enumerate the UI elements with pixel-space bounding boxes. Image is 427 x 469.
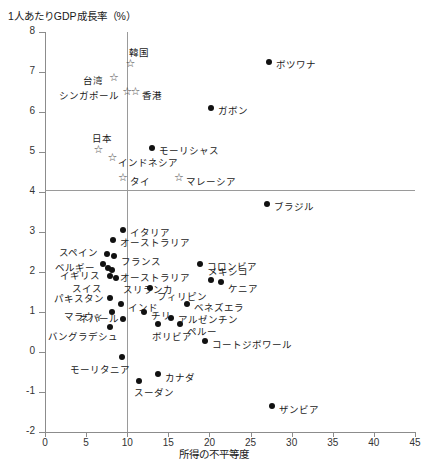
data-point-label: フランス [121, 254, 161, 268]
data-point-label: スペイン [59, 245, 98, 259]
data-point-marker[interactable] [104, 251, 110, 257]
data-point-label: モーリタニア [70, 362, 130, 376]
data-point-marker[interactable] [184, 301, 190, 307]
data-point-marker[interactable] [269, 403, 275, 409]
data-point-marker[interactable] [197, 261, 203, 267]
data-point-marker[interactable] [202, 338, 208, 344]
data-point-label: 日本 [92, 131, 112, 145]
data-point-marker[interactable] [168, 315, 174, 321]
data-point-marker[interactable] [177, 321, 183, 327]
data-point-marker[interactable] [155, 321, 161, 327]
data-point-marker[interactable] [111, 253, 117, 259]
y-tick-mark [39, 32, 45, 33]
y-tick-label: 4 [5, 185, 35, 196]
data-point-marker[interactable] [147, 285, 153, 291]
data-point-label: パキスタン [54, 291, 104, 305]
data-point-marker[interactable]: ☆ [107, 152, 117, 163]
y-axis-line [45, 32, 46, 432]
data-point-marker[interactable] [119, 354, 125, 360]
y-tick-label: -1 [5, 385, 35, 396]
data-point-marker[interactable] [141, 309, 147, 315]
data-point-label: ネパール [79, 311, 119, 325]
y-tick-mark [39, 232, 45, 233]
y-tick-label: 8 [5, 25, 35, 36]
x-axis-title: 所得の不平等度 [0, 446, 427, 461]
y-tick-mark [39, 72, 45, 73]
data-point-marker[interactable] [110, 237, 116, 243]
data-point-marker[interactable] [136, 378, 142, 384]
y-tick-mark [39, 312, 45, 313]
data-point-marker[interactable] [113, 275, 119, 281]
data-point-marker[interactable]: ☆ [126, 58, 136, 69]
y-tick-mark [39, 152, 45, 153]
data-point-label: ボツワナ [276, 57, 316, 71]
y-axis-title: 1人あたりGDP成長率（%） [8, 8, 136, 23]
data-point-marker[interactable] [107, 295, 113, 301]
y-tick-label: 7 [5, 65, 35, 76]
y-tick-label: 6 [5, 105, 35, 116]
y-tick-mark [39, 352, 45, 353]
y-tick-label: 1 [5, 305, 35, 316]
data-point-label: 韓国 [129, 45, 149, 59]
data-point-marker[interactable]: ☆ [93, 144, 103, 155]
y-tick-mark [39, 192, 45, 193]
data-point-label: イギリス [60, 268, 100, 282]
y-tick-mark [39, 112, 45, 113]
data-point-label: コートジボワール [212, 337, 292, 351]
data-point-label: カナダ [165, 370, 195, 384]
data-point-label: ガボン [218, 103, 248, 117]
y-tick-label: 0 [5, 345, 35, 356]
data-point-marker[interactable] [218, 279, 224, 285]
data-point-label: マレーシア [186, 174, 236, 188]
data-point-label: オーストラリア [120, 235, 190, 249]
data-point-label: バングラデシュ [48, 329, 118, 343]
y-tick-label: 2 [5, 265, 35, 276]
y-tick-label: 5 [5, 145, 35, 156]
horizontal-reference-line [45, 190, 415, 191]
data-point-marker[interactable] [264, 201, 270, 207]
scatter-chart: 1人あたりGDP成長率（%） 876543210-1-2051015202530… [0, 0, 427, 469]
data-point-label: 香港 [142, 88, 162, 102]
data-point-marker[interactable] [118, 301, 124, 307]
y-tick-label: -2 [5, 425, 35, 436]
data-point-label: 台湾 [83, 73, 103, 87]
data-point-label: ボリビア [152, 329, 192, 343]
y-tick-mark [39, 272, 45, 273]
data-point-label: シンガポール [59, 88, 119, 102]
data-point-marker[interactable]: ☆ [109, 72, 119, 83]
data-point-label: ザンビア [279, 402, 319, 416]
data-point-marker[interactable] [120, 316, 126, 322]
data-point-marker[interactable] [208, 105, 214, 111]
data-point-marker[interactable] [155, 371, 161, 377]
data-point-label: ブラジル [274, 199, 314, 213]
data-point-label: スーダン [134, 385, 174, 399]
data-point-marker[interactable] [266, 59, 272, 65]
data-point-marker[interactable]: ☆ [130, 86, 140, 97]
y-tick-mark [39, 392, 45, 393]
data-point-label: ケニア [228, 281, 258, 295]
y-tick-label: 3 [5, 225, 35, 236]
data-point-marker[interactable]: ☆ [174, 172, 184, 183]
data-point-marker[interactable] [149, 145, 155, 151]
data-point-marker[interactable] [120, 227, 126, 233]
data-point-label: メキシコ [208, 264, 248, 278]
data-point-marker[interactable]: ☆ [118, 172, 128, 183]
data-point-label: タイ [130, 174, 150, 188]
data-point-label: インドネシア [118, 155, 178, 169]
x-axis-line [45, 432, 415, 433]
